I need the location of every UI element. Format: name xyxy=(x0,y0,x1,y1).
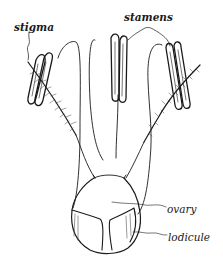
styles xyxy=(76,135,144,178)
lodicule-label: lodicule xyxy=(168,232,210,243)
filaments xyxy=(58,40,162,214)
stamens-leader-line xyxy=(128,27,170,46)
stigma-leader-line xyxy=(27,32,29,60)
ovary-label: ovary xyxy=(167,204,196,215)
center-anthers xyxy=(111,34,127,102)
stamens-label: stamens xyxy=(124,12,173,23)
stigma-label: stigma xyxy=(14,22,54,33)
right-stigma xyxy=(144,65,200,142)
grass-flower-diagram xyxy=(0,0,223,263)
